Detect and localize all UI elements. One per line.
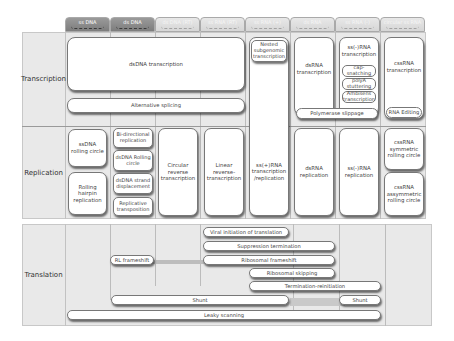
column-divider [200, 224, 201, 286]
tab-ss-rna-minus: ss RNA (-) [335, 17, 380, 32]
termination-reinitiation-bar: Termination-reinitiation [249, 281, 381, 291]
rolling-hairpin-replication-box: Rolling hairpin replication [68, 172, 107, 215]
wave-icon [341, 24, 374, 29]
linear-reverse-transcription-box: Linear reverse-transcription [204, 128, 244, 216]
ribosomal-skipping-bar: Ribosomal skipping [249, 268, 335, 278]
shunt-bar-left: Shunt [111, 295, 289, 305]
ss-minus-rna-replication-box: ss(-)RNA replication [339, 128, 379, 216]
row-divider [22, 126, 426, 127]
shunt-bar-right: Shunt [339, 295, 381, 305]
ambisense-transcription-box: Ambisens transcription [342, 91, 376, 103]
tab-circular-ss-rna: circular ss RNA [380, 17, 425, 32]
wave-icon [116, 24, 149, 29]
replicative-transposition-box: Replicative transposition [113, 197, 153, 216]
wave-icon [206, 24, 239, 29]
dsdna-strand-displacement-box: dsDNA strand displacement [113, 173, 153, 194]
wave-icon [161, 24, 194, 29]
dsdna-rolling-circle-box: dsDNA Rolling circle [113, 150, 153, 171]
bidirectional-replication-box: Bi-directional replication [113, 128, 153, 148]
shunt-connector [290, 298, 345, 306]
tab-ds-rna: ds RNA [290, 17, 335, 32]
wave-icon [296, 24, 329, 29]
polya-stuttering-box: polyA stuttering [342, 78, 376, 90]
dsrna-replication-box: dsRNA replication [294, 128, 334, 216]
leaky-scanning-bar: Leaky scanning [67, 310, 381, 320]
tab-ss-rna-plus: ss RNA (+) [245, 17, 290, 32]
wave-icon [386, 24, 419, 29]
alternative-splicing-box: Alternative splicing [67, 98, 245, 113]
polymerase-slippage-box: Polymerase slippage [296, 108, 378, 119]
dsrna-transcription-label: dsRNA transcription [296, 62, 332, 75]
ss-minus-rna-transcription-label: ss(-)RNA transcription [341, 44, 377, 57]
tab-ds-dna: ds DNA [110, 17, 155, 32]
circular-reverse-transcription-box: Circular reverse transcription [158, 128, 198, 216]
nested-subgenomic-box: Nested subgenomic transcription [251, 40, 287, 62]
wave-icon [251, 24, 284, 29]
wave-icon [71, 24, 104, 29]
dsrna-transcription-box: dsRNA transcription [294, 37, 334, 115]
divider [65, 224, 66, 326]
dsdna-transcription-box: dsDNA transcription [67, 37, 245, 91]
cssrna-transcription-label: cssRNA transcription [386, 60, 422, 73]
cap-snatching-box: cap-snatching [342, 65, 376, 77]
cssrna-symmetric-rolling-circle-box: cssRNA symmetric rolling circle [384, 128, 424, 170]
tab-ss-dna: ss DNA [65, 17, 110, 32]
row-label-transcription: Transcription [22, 32, 65, 126]
ribosomal-frameshift-bar: Ribosomal frameshift [203, 255, 335, 265]
column-divider [385, 224, 386, 326]
viral-initiation-bar: Viral initiation of translation [203, 227, 289, 237]
column-divider [155, 224, 156, 286]
ssdna-rolling-circle-box: ssDNA rolling circle [68, 129, 107, 167]
tab-ss-rna-rt: ss RNA (RT) [200, 17, 245, 32]
rna-editing-box: RNA Editing [386, 107, 422, 118]
cssrna-asymmetric-rolling-circle-box: cssRNA assymmetric rolling circle [384, 172, 424, 216]
row-label-replication: Replication [22, 127, 65, 219]
ss-plus-rna-label: ss(+)RNA transcription /replication [251, 162, 287, 182]
row-label-translation: Translation [22, 224, 65, 326]
suppression-termination-bar: Suppression termination [203, 241, 335, 251]
tab-ds-dna-rt: ds DNA (RT) [155, 17, 200, 32]
frameshift-connector [150, 260, 205, 264]
rl-frameshift-bar: RL frameshift [110, 255, 154, 265]
ss-plus-rna-transcription-replication-box: ss(+)RNA transcription /replication [249, 37, 289, 216]
